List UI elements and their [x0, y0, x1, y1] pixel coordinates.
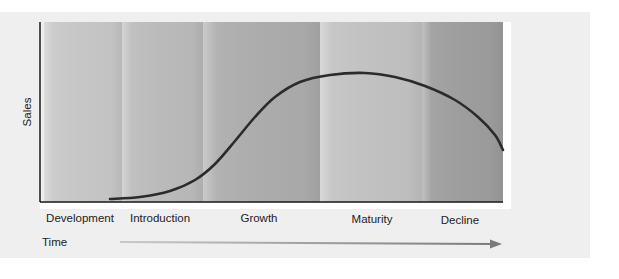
stage-band-shade	[422, 22, 503, 202]
stage-label-decline: Decline	[441, 214, 479, 226]
plot-right-margin	[503, 22, 511, 209]
stage-band-shade	[122, 22, 203, 202]
plot-bottom-margin	[40, 203, 511, 209]
stage-label-growth: Growth	[240, 212, 277, 224]
stage-label-development: Development	[46, 212, 115, 224]
stage-label-maturity: Maturity	[352, 213, 393, 225]
stage-band-shade	[320, 22, 422, 202]
product-life-cycle-diagram: Sales Development Introduction Growth Ma…	[0, 0, 619, 279]
stage-label-introduction: Introduction	[130, 212, 190, 224]
y-axis-label: Sales	[21, 97, 33, 126]
stage-bands	[44, 22, 503, 202]
x-axis-label: Time	[42, 236, 67, 248]
stage-band-shade	[44, 22, 122, 202]
stage-band-shade	[203, 22, 320, 202]
